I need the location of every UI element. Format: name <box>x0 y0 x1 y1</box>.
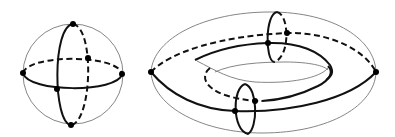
torus-hole-right-solid <box>262 66 331 101</box>
torus-lower-tube <box>236 84 256 134</box>
sphere-equator-back <box>23 59 122 74</box>
sphere-group <box>20 21 125 128</box>
sphere-outline <box>23 24 123 124</box>
torus-hole-top-rim <box>215 62 328 72</box>
torus-curve-inner-top <box>195 43 332 80</box>
figure-canvas: Curves on a sphere and a torus <box>0 0 395 137</box>
sphere-point-back-crossing <box>85 55 91 61</box>
torus-point-lower-tube-front <box>232 108 238 114</box>
sphere-point-top <box>70 21 76 27</box>
torus-point-left-apex <box>148 69 154 75</box>
torus-curve-front <box>151 72 376 111</box>
sphere-point-left <box>20 70 26 76</box>
torus-point-upper-tube-back <box>284 30 290 36</box>
torus-point-right-apex <box>373 69 379 75</box>
sphere-equator-front <box>23 73 122 88</box>
torus-point-upper-tube-front <box>265 40 271 46</box>
sphere-point-front-crossing <box>54 86 60 92</box>
torus-group <box>148 12 379 134</box>
sphere-meridian-front <box>57 24 73 125</box>
diagram-svg <box>0 0 395 137</box>
sphere-meridian-back <box>71 24 88 125</box>
torus-curve-back <box>151 33 376 72</box>
torus-outer-bottom <box>151 72 376 133</box>
torus-upper-tube-back <box>274 12 286 62</box>
torus-upper-tube-front <box>268 12 277 62</box>
torus-point-lower-tube-back <box>252 98 258 104</box>
sphere-point-right <box>119 71 125 77</box>
sphere-point-bottom <box>68 122 74 128</box>
